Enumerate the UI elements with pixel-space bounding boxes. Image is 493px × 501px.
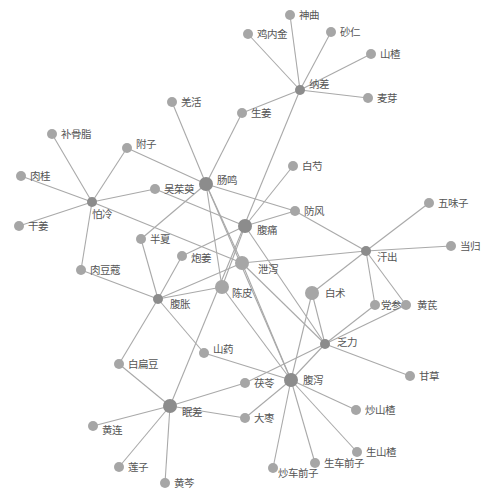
node-circle: [240, 378, 250, 388]
node-label: 肉桂: [30, 170, 51, 182]
node-circle: [177, 251, 187, 261]
node-label: 怕冷: [92, 208, 113, 220]
node-ganjiang: 干姜: [14, 220, 49, 232]
edge-paleng-roudoukou: [81, 202, 92, 270]
node-wuweizi: 五味子: [424, 197, 468, 209]
node-label: 茯苓: [254, 377, 275, 389]
node-label: 干姜: [28, 220, 49, 232]
node-label: 黄芪: [417, 299, 437, 311]
node-fangfeng: 防风: [290, 205, 325, 217]
node-chenpi: 陈皮: [215, 280, 253, 299]
node-futong: 腹痛: [238, 219, 277, 236]
node-label: 山药: [213, 343, 233, 355]
node-gancao: 甘草: [405, 370, 439, 382]
node-label: 半夏: [150, 233, 171, 245]
node-circle: [290, 206, 300, 216]
node-label: 白扁豆: [128, 358, 158, 370]
edge-paleng-buguzhi: [52, 134, 92, 202]
node-circle: [405, 371, 415, 381]
edge-fuxie-xiexie: [242, 263, 291, 380]
node-circle: [150, 184, 160, 194]
node-fali: 乏力: [320, 336, 357, 349]
node-fuling: 茯苓: [240, 377, 275, 389]
edge-nacha-shenqu: [290, 15, 300, 90]
node-shanyao: 山药: [199, 343, 233, 358]
node-circle: [88, 421, 98, 431]
edge-paleng-wuzhuyu: [92, 189, 155, 202]
node-circle: [153, 294, 163, 304]
node-circle: [351, 405, 361, 415]
node-buguzhi: 补骨脂: [47, 128, 92, 140]
node-circle: [243, 29, 253, 39]
node-label: 腹泻: [303, 374, 323, 386]
node-danggui: 当归: [446, 240, 480, 252]
node-circle: [240, 413, 250, 423]
node-paojiang: 炮姜: [177, 251, 212, 264]
node-label: 白芍: [302, 160, 322, 172]
edge-futong-fali: [245, 226, 325, 344]
node-label: 吴茱萸: [164, 183, 195, 195]
edge-changming-fangfeng: [206, 184, 295, 211]
node-circle: [284, 373, 298, 387]
node-jineijin: 鸡内金: [243, 28, 288, 40]
node-chaocheqianzi: 炒车前子: [268, 463, 318, 479]
node-label: 羌活: [181, 96, 202, 108]
edge-hanchu-dangshen: [366, 251, 375, 305]
node-label: 生姜: [251, 107, 272, 119]
node-circle: [167, 97, 177, 107]
node-circle: [424, 198, 434, 208]
edge-miancha-huanglian: [93, 406, 170, 426]
node-circle: [136, 234, 146, 244]
node-label: 五味子: [438, 197, 468, 209]
node-fuxie: 腹泻: [284, 373, 323, 387]
node-circle: [370, 300, 380, 310]
node-circle: [114, 462, 124, 472]
node-baibiandou: 白扁豆: [114, 358, 158, 370]
node-dazao: 大枣: [240, 412, 275, 424]
node-label: 泄泻: [258, 263, 278, 275]
node-label: 山楂: [380, 48, 401, 60]
edge-changming-fuzi: [127, 148, 206, 184]
edge-fuzhang-chenpi: [158, 287, 222, 299]
node-label: 神曲: [299, 9, 319, 21]
node-circle: [122, 143, 132, 153]
node-circle: [199, 348, 209, 358]
node-hanchu: 汗出: [361, 246, 397, 263]
node-label: 党参: [381, 299, 402, 311]
node-label: 麦芽: [377, 92, 397, 104]
node-huanglian: 黄连: [88, 421, 123, 436]
edge-fuzhang-baibiandou: [119, 299, 158, 364]
node-shenqu: 神曲: [285, 9, 319, 21]
node-label: 当归: [460, 240, 480, 252]
node-lianzi: 莲子: [114, 461, 148, 473]
edge-futong-baishao: [245, 166, 293, 226]
node-changming: 肠鸣: [199, 174, 237, 191]
node-label: 炒车前子: [278, 467, 318, 479]
edge-hanchu-fangfeng: [295, 211, 366, 251]
node-label: 生山楂: [366, 446, 397, 458]
edge-fuzhang-xiexie: [158, 263, 242, 299]
edge-hanchu-wuweizi: [366, 203, 429, 251]
node-circle: [199, 177, 213, 191]
edge-miancha-fuling: [170, 383, 245, 406]
node-circle: [326, 27, 336, 37]
node-baishao: 白芍: [288, 160, 322, 172]
node-label: 生车前子: [324, 457, 364, 469]
node-label: 补骨脂: [61, 128, 92, 140]
edge-miancha-lianzi: [119, 406, 170, 467]
node-label: 黄连: [102, 424, 123, 436]
node-circle: [47, 129, 57, 139]
node-shengcheqianzi: 生车前子: [310, 457, 364, 469]
node-rougui: 肉桂: [16, 170, 51, 182]
edge-fuxie-baizhu: [291, 293, 312, 380]
node-circle: [16, 171, 26, 181]
edge-fali-gancao: [325, 344, 410, 376]
node-label: 附子: [136, 138, 156, 150]
node-circle: [305, 286, 319, 300]
edge-changming-qianghuo: [172, 102, 206, 184]
node-huangqin: 黄芩: [160, 477, 195, 489]
node-label: 黄芩: [174, 477, 195, 489]
node-label: 鸡内金: [257, 28, 288, 40]
node-xiexie: 泄泻: [235, 256, 278, 275]
node-shanzha: 山楂: [366, 48, 401, 60]
